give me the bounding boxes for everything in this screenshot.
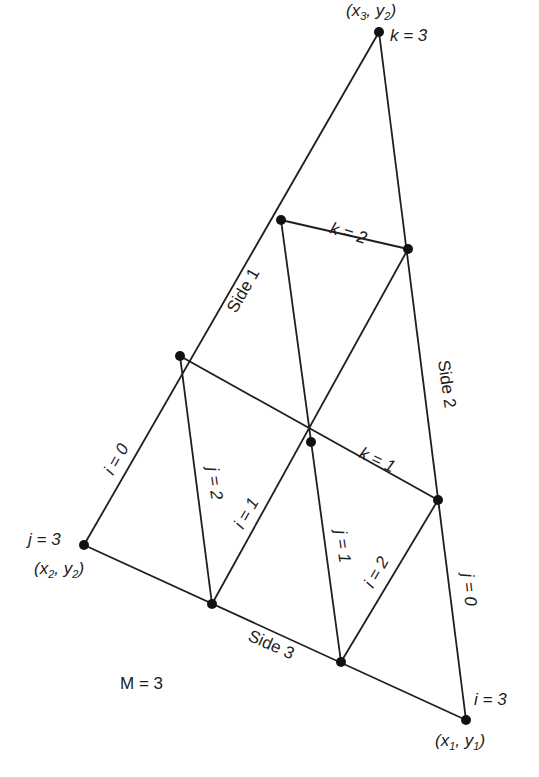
node (207, 599, 217, 609)
label-j2: j = 2 (203, 464, 227, 501)
node (175, 351, 185, 361)
line-i2 (341, 500, 438, 662)
label-i2: i = 2 (360, 553, 393, 591)
node-center (306, 437, 316, 447)
nodes (79, 27, 471, 725)
vertex-3-index-label: k = 3 (390, 26, 428, 45)
node-vertex-2 (79, 540, 89, 550)
node (276, 215, 286, 225)
vertex-2-coords: (x2, y2) (34, 559, 84, 580)
vertex-2-index-label: j = 3 (26, 530, 61, 549)
node (403, 244, 413, 254)
outer-triangle (84, 32, 466, 720)
label-j1: j = 1 (331, 527, 355, 564)
side-3-label: Side 3 (245, 626, 297, 663)
triangle-subdivision-diagram: (x3, y2) k = 3 j = 3 (x2, y2) i = 3 (x1,… (0, 0, 539, 777)
vertex-3-coords: (x3, y2) (346, 1, 396, 22)
side-1-label: Side 1 (223, 265, 264, 316)
side-2-label: Side 2 (434, 359, 460, 409)
label-i0: i = 0 (100, 440, 133, 478)
side-1-edge (84, 32, 379, 545)
m-value-label: M = 3 (120, 674, 163, 693)
label-j0: j = 0 (458, 570, 481, 607)
side-3-edge (84, 545, 466, 720)
label-k1: k = 1 (356, 443, 398, 476)
node (336, 657, 346, 667)
node-vertex-1 (461, 715, 471, 725)
vertex-1-index-label: i = 3 (474, 690, 507, 709)
label-k2: k = 2 (328, 219, 370, 248)
label-i1-left: i = 1 (230, 494, 263, 532)
node (433, 495, 443, 505)
node-vertex-3 (374, 27, 384, 37)
vertex-1-coords: (x1, y1) (435, 731, 485, 752)
